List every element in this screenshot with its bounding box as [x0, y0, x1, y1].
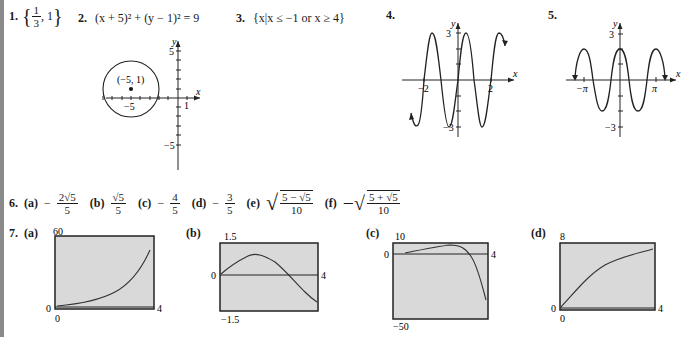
neg-sqrt-sign: −√: [343, 192, 365, 215]
circle-graph: (−5, 1) −5 1 5 −5 x y: [100, 38, 210, 178]
x-axis-label: x: [195, 86, 201, 97]
problem-number: 1.: [9, 9, 18, 23]
part-label: (f): [325, 196, 337, 211]
fraction: 45: [170, 191, 180, 216]
denominator: 5: [57, 204, 78, 216]
denominator: 10: [367, 204, 400, 216]
ymin: −50: [393, 321, 409, 332]
problem-number: 2.: [78, 11, 87, 25]
zero: 0: [211, 270, 216, 281]
plot-d: 8 0 0 4: [551, 231, 663, 324]
brace-open: {: [22, 5, 32, 27]
denominator: 5: [170, 204, 180, 216]
sign: −: [157, 196, 164, 211]
x-axis-label: x: [675, 68, 681, 79]
ymax: 1.5: [224, 231, 237, 242]
y-tick-bottom: −5: [164, 140, 175, 151]
fraction: 5 + √510: [367, 190, 400, 216]
sign: −: [212, 196, 219, 211]
ymin: 0: [551, 303, 556, 314]
plot-c: 10 0 −50 4: [384, 231, 496, 332]
y-tick-top: 3: [446, 28, 451, 39]
answer-rest: , 1: [41, 9, 53, 23]
fraction: 35: [225, 191, 235, 216]
x-tick-one: 1: [184, 100, 189, 111]
denominator: 5: [111, 204, 127, 216]
ymin: −1.5: [221, 314, 239, 325]
problem-number: 6.: [9, 196, 18, 211]
problem-3: 3. {x|x ≤ −1 or x ≥ 4}: [236, 8, 345, 26]
x-tick-left: −2: [418, 83, 429, 94]
numerator: 5 − √5: [280, 191, 313, 204]
x-tick-label: −5: [124, 101, 135, 112]
numerator: 5 + √5: [367, 191, 400, 204]
y-tick-bottom: −3: [443, 122, 454, 133]
x-axis-label: x: [512, 68, 518, 79]
x-tick-right: 2: [488, 83, 493, 94]
ymax: 8: [560, 231, 565, 242]
denominator: 5: [225, 204, 235, 216]
fraction: √55: [111, 191, 127, 216]
fraction: 5 − √510: [280, 190, 313, 216]
ymax: 60: [53, 226, 63, 237]
xmax: 4: [321, 270, 326, 281]
problem-1: 1. {13, 1}: [9, 4, 63, 29]
calculator-plots: 60 0 0 4 1.5 0 −1.5 4 10 0 −50 4 8 0 0 4: [0, 220, 691, 337]
ymin: 0: [46, 303, 51, 314]
xmin: 0: [55, 313, 60, 324]
problem-5-number: 5.: [548, 8, 557, 23]
sqrt-sign: √: [266, 190, 278, 216]
plot-a: 60 0 0 4: [46, 226, 162, 324]
numerator: 3: [225, 191, 235, 204]
problem-2: 2. (x + 5)² + (y − 1)² = 9: [78, 8, 199, 26]
fraction: 13: [32, 4, 42, 29]
xmin: 0: [560, 313, 565, 324]
center-label: (−5, 1): [117, 74, 144, 86]
answer-text: (x + 5)² + (y − 1)² = 9: [95, 11, 199, 25]
cosine-graph: 3 −3 −π π x y: [565, 20, 685, 145]
y-axis-label: y: [450, 20, 456, 29]
part-label: (a): [24, 196, 38, 211]
y-axis-label: y: [612, 20, 618, 29]
y-tick-top: 3: [609, 29, 614, 40]
problem-4-number: 4.: [386, 8, 395, 23]
y-axis-label: y: [171, 38, 177, 47]
problem-6: 6. (a) − 2√55 (b) √55 (c) − 45 (d) − 35 …: [9, 190, 400, 216]
xmax: 4: [157, 303, 162, 314]
x-tick-right: π: [652, 83, 658, 94]
sign: −: [44, 196, 51, 211]
fraction: 2√55: [57, 191, 78, 216]
ymax: 10: [395, 231, 405, 242]
numerator: 4: [170, 191, 180, 204]
answer-text: {x|x ≤ −1 or x ≥ 4}: [253, 11, 345, 25]
numerator: 1: [32, 4, 42, 17]
part-label: (c): [138, 196, 151, 211]
numerator: 2√5: [57, 191, 78, 204]
brace-close: }: [53, 5, 63, 27]
denominator: 10: [280, 204, 313, 216]
part-label: (e): [247, 196, 260, 211]
problem-number: 3.: [236, 11, 245, 25]
sine-graph: 3 −3 −2 2 x y: [400, 20, 540, 145]
plot-b: 1.5 0 −1.5 4: [211, 231, 326, 325]
part-label: (b): [90, 196, 105, 211]
numerator: √5: [111, 191, 127, 204]
x-tick-left: −π: [576, 83, 589, 94]
y-tick-top: 5: [169, 46, 174, 57]
xmax: 4: [658, 303, 663, 314]
part-label: (d): [192, 196, 207, 211]
y-tick-bottom: −3: [605, 122, 616, 133]
zero: 0: [384, 249, 389, 260]
denominator: 3: [32, 17, 42, 29]
xmax: 4: [491, 249, 496, 260]
